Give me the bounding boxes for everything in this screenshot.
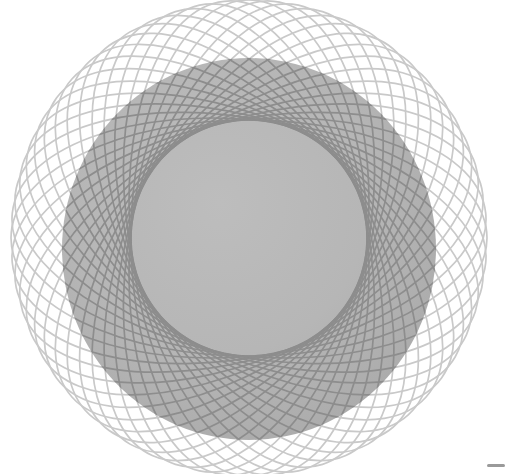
artboard: Spirograph Ellipse Envelope xyxy=(0,0,513,474)
abstract-artwork xyxy=(0,0,513,474)
corner-mark xyxy=(487,464,505,467)
